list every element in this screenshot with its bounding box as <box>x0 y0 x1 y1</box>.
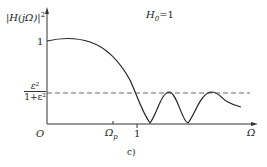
x-axis-label: Ω <box>247 128 255 138</box>
y-axis-label-text: |H(jΩ)| <box>6 12 41 23</box>
y-axis-label: |H(jΩ)|2 <box>6 12 45 23</box>
x-axis-arrow-icon <box>251 122 258 126</box>
y-axis-arrow-icon <box>45 7 49 14</box>
x-tick-omega-p: Ωp <box>105 128 118 141</box>
gain-annotation: H0=1 <box>146 10 174 23</box>
gain-annotation-value: =1 <box>159 9 174 20</box>
y-tick-ripple-fraction: ε² 1+ε² <box>24 82 46 102</box>
fraction-numerator: ε² <box>24 82 46 91</box>
y-axis-label-exponent: 2 <box>41 11 45 19</box>
x-tick-one: 1 <box>134 129 140 139</box>
omega-p-subscript: p <box>113 133 117 141</box>
origin-label: O <box>36 129 44 139</box>
y-tick-one: 1 <box>37 37 43 47</box>
figure-caption: c) <box>127 148 136 157</box>
fraction-denominator: 1+ε² <box>24 91 46 102</box>
gain-annotation-h: H <box>146 9 155 20</box>
magnitude-response-curve <box>47 39 241 124</box>
